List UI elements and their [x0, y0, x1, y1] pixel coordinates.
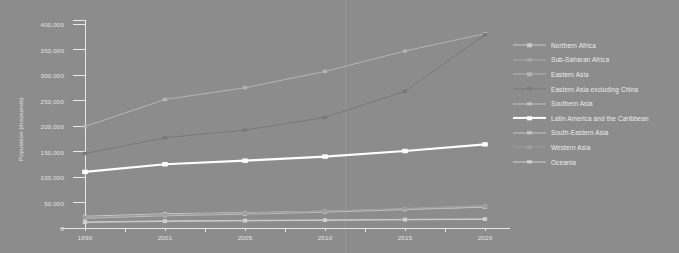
series-group — [82, 32, 488, 224]
legend-swatch-icon — [513, 84, 546, 94]
legend-swatch-icon — [513, 69, 546, 79]
x-tick-label: 2010 — [318, 234, 333, 241]
y-tick-label: 350,000 — [41, 46, 64, 53]
legend-item[interactable]: Southern Asia — [513, 96, 679, 111]
y-tick-label: 300,000 — [41, 72, 64, 79]
y-tick-label: 0 — [60, 225, 64, 232]
legend-swatch-icon — [513, 40, 546, 50]
chart-screenshot: 050,000100,000150,000200,000250,000300,0… — [0, 0, 679, 253]
axis-group — [60, 20, 510, 232]
x-tick-label: 2020 — [478, 234, 493, 241]
legend-swatch-icon — [513, 128, 546, 138]
legend-label: Eastern Asia excluding China — [551, 86, 638, 93]
x-axis-tick-labels: 199020012005201020152020 — [0, 234, 679, 246]
legend-item[interactable]: Northern Africa — [513, 38, 679, 53]
legend-item[interactable]: Oceania — [513, 155, 679, 170]
legend-item[interactable]: Eastern Asia — [513, 67, 679, 82]
legend-swatch-icon — [513, 113, 546, 123]
y-tick-label: 200,000 — [41, 123, 64, 130]
legend-label: South-Eastern Asia — [551, 129, 608, 136]
x-tick-label: 2001 — [158, 234, 173, 241]
chart-legend: Northern AfricaSub-Saharan AfricaEastern… — [513, 38, 679, 169]
y-tick-label: 150,000 — [41, 148, 64, 155]
legend-item[interactable]: Sub-Saharan Africa — [513, 53, 679, 68]
legend-label: Southern Asia — [551, 100, 593, 107]
x-tick-label: 2005 — [238, 234, 253, 241]
legend-swatch-icon — [513, 99, 546, 109]
legend-swatch-icon — [513, 142, 546, 152]
legend-label: Sub-Saharan Africa — [551, 56, 609, 63]
y-tick-label: 400,000 — [41, 21, 64, 28]
x-tick-label: 1990 — [78, 234, 93, 241]
legend-item[interactable]: Eastern Asia excluding China — [513, 82, 679, 97]
legend-swatch-icon — [513, 157, 546, 167]
legend-label: Eastern Asia — [551, 71, 589, 78]
legend-swatch-icon — [513, 55, 546, 65]
legend-item[interactable]: Latin America and the Caribbean — [513, 111, 679, 126]
y-tick-label: 250,000 — [41, 97, 64, 104]
legend-item[interactable]: Western Asia — [513, 140, 679, 155]
y-axis-tick-labels: 050,000100,000150,000200,000250,000300,0… — [22, 0, 64, 253]
legend-item[interactable]: South-Eastern Asia — [513, 126, 679, 141]
legend-label: Latin America and the Caribbean — [551, 115, 649, 122]
series-line — [83, 32, 487, 128]
y-axis-title: Population (thousands) — [18, 74, 24, 184]
series-line — [82, 142, 488, 174]
legend-label: Oceania — [551, 159, 576, 166]
x-tick-label: 2015 — [398, 234, 413, 241]
y-tick-label: 100,000 — [41, 174, 64, 181]
legend-label: Northern Africa — [551, 42, 596, 49]
legend-label: Western Asia — [551, 144, 590, 151]
series-line — [83, 33, 487, 155]
y-tick-label: 50,000 — [44, 199, 64, 206]
